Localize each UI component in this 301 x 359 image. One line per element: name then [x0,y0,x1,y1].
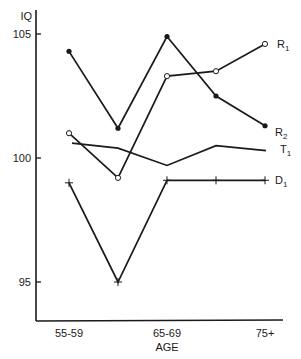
x-tick-label: 65-69 [153,327,181,339]
y-axis-title: IQ [20,10,32,22]
plus-marker [114,278,122,286]
series-group: R1R2T1D1 [65,34,292,286]
open-circle-marker [66,131,71,136]
plus-marker [65,179,73,187]
filled-circle-marker [164,34,169,39]
series-line [69,36,265,128]
plus-marker [212,176,220,184]
filled-circle-marker [66,49,71,54]
plus-marker [261,176,269,184]
x-tick-label: 55-59 [55,327,83,339]
line-chart: 95100105IQ55-5965-6975+AGE R1R2T1D1 [0,0,301,359]
axes: 95100105IQ55-5965-6975+AGE [13,10,283,353]
series-d1: D1 [65,174,288,286]
open-circle-marker [115,175,120,180]
y-tick-label: 105 [13,28,31,40]
plus-marker [163,176,171,184]
y-tick-label: 95 [19,276,31,288]
series-label-d1: D1 [275,174,288,189]
filled-circle-marker [115,126,120,131]
series-line [69,180,265,282]
open-circle-marker [262,41,267,46]
x-axis-title: AGE [155,341,178,353]
series-label-r2: R2 [275,126,288,141]
filled-circle-marker [262,123,267,128]
series-label-t1: T1 [280,143,292,158]
open-circle-marker [213,69,218,74]
series-r1: R1 [66,38,290,181]
series-t1: T1 [72,143,292,166]
series-label-r1: R1 [277,38,290,53]
series-line [69,44,265,178]
filled-circle-marker [213,93,218,98]
open-circle-marker [164,74,169,79]
y-tick-label: 100 [13,152,31,164]
x-axis-line [36,320,283,321]
x-tick-label: 75+ [256,327,275,339]
